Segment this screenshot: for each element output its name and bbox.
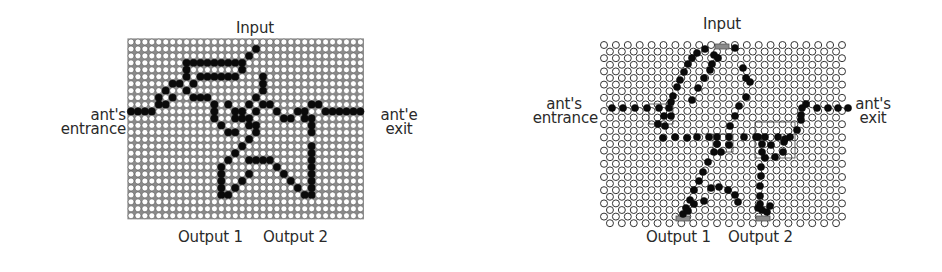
- grid-dot: [678, 141, 685, 148]
- grid-dot: [612, 134, 619, 141]
- grid-dot: [612, 200, 619, 207]
- path-dot: [746, 78, 753, 85]
- grid-dot: [797, 220, 804, 227]
- grid-dot: [260, 95, 266, 101]
- path-dot: [654, 120, 661, 127]
- grid-dot: [343, 213, 349, 219]
- grid-dot: [128, 157, 134, 163]
- grid-dot: [833, 193, 840, 200]
- grid-dot: [267, 109, 273, 115]
- grid-dot: [761, 88, 768, 95]
- grid-dot: [833, 101, 840, 108]
- grid-dot: [163, 192, 169, 198]
- grid-dot: [601, 94, 608, 101]
- grid-dot: [260, 46, 266, 52]
- grid-dot: [803, 121, 810, 128]
- grid-dot: [815, 160, 822, 167]
- grid-dot: [767, 134, 774, 141]
- grid-dot: [737, 220, 744, 227]
- grid-dot: [135, 199, 141, 205]
- grid-dot: [288, 192, 294, 198]
- grid-dot: [755, 108, 762, 115]
- grid-dot: [606, 48, 613, 55]
- grid-dot: [357, 157, 363, 163]
- grid-dot: [624, 174, 631, 181]
- grid-dot: [821, 154, 828, 161]
- grid-dot: [260, 150, 266, 156]
- grid-dot: [606, 154, 613, 161]
- grid-dot: [343, 88, 349, 94]
- grid-dot: [624, 121, 631, 128]
- grid-dot: [725, 88, 732, 95]
- path-dot: [148, 108, 155, 115]
- grid-dot: [295, 192, 301, 198]
- grid-dot: [833, 61, 840, 68]
- grid-dot: [128, 178, 134, 184]
- grid-dot: [253, 178, 259, 184]
- grid-dot: [779, 108, 786, 115]
- grid-dot: [156, 171, 162, 177]
- path-dot: [329, 108, 336, 115]
- path-dot: [308, 191, 315, 198]
- path-dot: [204, 59, 211, 66]
- grid-dot: [274, 143, 280, 149]
- grid-dot: [302, 95, 308, 101]
- grid-dot: [177, 178, 183, 184]
- grid-dot: [357, 53, 363, 59]
- grid-dot: [218, 46, 224, 52]
- grid-dot: [601, 187, 608, 194]
- path-dot: [190, 59, 197, 66]
- grid-dot: [672, 134, 679, 141]
- path-dot: [779, 148, 786, 155]
- grid-dot: [731, 121, 738, 128]
- grid-dot: [204, 192, 210, 198]
- grid-dot: [684, 134, 691, 141]
- grid-dot: [767, 81, 774, 88]
- grid-dot: [128, 213, 134, 219]
- grid-dot: [177, 39, 183, 45]
- grid-dot: [737, 127, 744, 134]
- grid-dot: [211, 150, 217, 156]
- grid-dot: [678, 101, 685, 108]
- grid-dot: [773, 154, 780, 161]
- grid-dot: [618, 154, 625, 161]
- grid-dot: [731, 81, 738, 88]
- path-dot: [211, 115, 218, 122]
- grid-dot: [725, 114, 732, 121]
- grid-dot: [350, 192, 356, 198]
- grid-dot: [198, 88, 204, 94]
- path-dot: [713, 140, 720, 147]
- grid-dot: [696, 160, 703, 167]
- grid-dot: [225, 206, 231, 212]
- path-dot: [225, 191, 232, 198]
- path-dot: [763, 208, 770, 215]
- grid-dot: [779, 134, 786, 141]
- path-dot: [287, 177, 294, 184]
- grid-dot: [743, 81, 750, 88]
- grid-dot: [642, 101, 649, 108]
- grid-dot: [779, 81, 786, 88]
- grid-dot: [239, 88, 245, 94]
- grid-dot: [302, 74, 308, 80]
- grid-dot: [177, 213, 183, 219]
- grid-dot: [749, 101, 756, 108]
- grid-dot: [267, 164, 273, 170]
- grid-dot: [163, 185, 169, 191]
- grid-dot: [309, 67, 315, 73]
- grid-dot: [809, 127, 816, 134]
- grid-dot: [684, 108, 691, 115]
- grid-dot: [660, 55, 667, 62]
- grid-dot: [785, 141, 792, 148]
- grid-dot: [135, 206, 141, 212]
- grid-dot: [274, 171, 280, 177]
- grid-dot: [791, 147, 798, 154]
- grid-dot: [678, 61, 685, 68]
- grid-dot: [809, 180, 816, 187]
- exit-label: ant's exit: [851, 97, 895, 125]
- grid-dot: [302, 102, 308, 108]
- path-dot: [786, 133, 793, 140]
- grid-dot: [666, 88, 673, 95]
- grid-dot: [654, 207, 661, 214]
- grid-dot: [678, 180, 685, 187]
- path-dot: [665, 104, 672, 111]
